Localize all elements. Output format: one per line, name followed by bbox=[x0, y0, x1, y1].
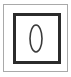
icon-canvas bbox=[0, 0, 71, 77]
framed-oval-icon bbox=[0, 0, 71, 77]
